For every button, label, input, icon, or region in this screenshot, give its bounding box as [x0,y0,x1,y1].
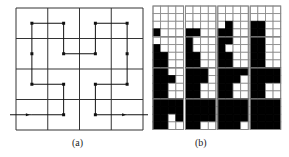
fill-step-grid [250,68,281,99]
caption-panel-a: (a) [72,137,83,148]
fill-step-grid [185,6,216,37]
fill-step-grid [185,68,216,99]
fill-step-grid [185,37,216,68]
fill-step-grid [185,99,216,130]
fill-step-grid [153,37,184,68]
fill-step-grid [250,6,281,37]
fill-step-grid [250,99,281,130]
fill-step-grid [218,37,249,68]
fill-step-grid [218,6,249,37]
caption-panel-b: (b) [195,137,207,148]
fill-step-grid [153,6,184,37]
fill-step-grid [218,68,249,99]
fill-step-grid [153,99,184,130]
fill-step-grid [218,99,249,130]
panel-b-fill-sequence [0,0,289,135]
fill-step-grid [250,37,281,68]
fill-step-grid [153,68,184,99]
